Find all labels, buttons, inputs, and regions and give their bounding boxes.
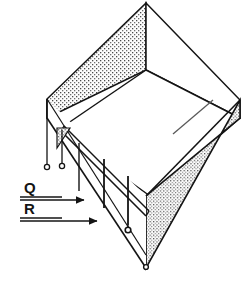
terminator-2-open-circle [59,163,64,168]
isometric-container-drawing: Q R [0,0,252,297]
callout-q: Q [20,179,84,200]
terminator-4-open-circle [144,265,149,270]
callout-q-label: Q [24,179,36,196]
terminator-3-open-circle [125,227,131,233]
callout-r: R [20,200,97,221]
figure-canvas: Q R [0,0,252,297]
terminator-1-open-circle [44,164,49,169]
callout-r-label: R [24,200,35,217]
